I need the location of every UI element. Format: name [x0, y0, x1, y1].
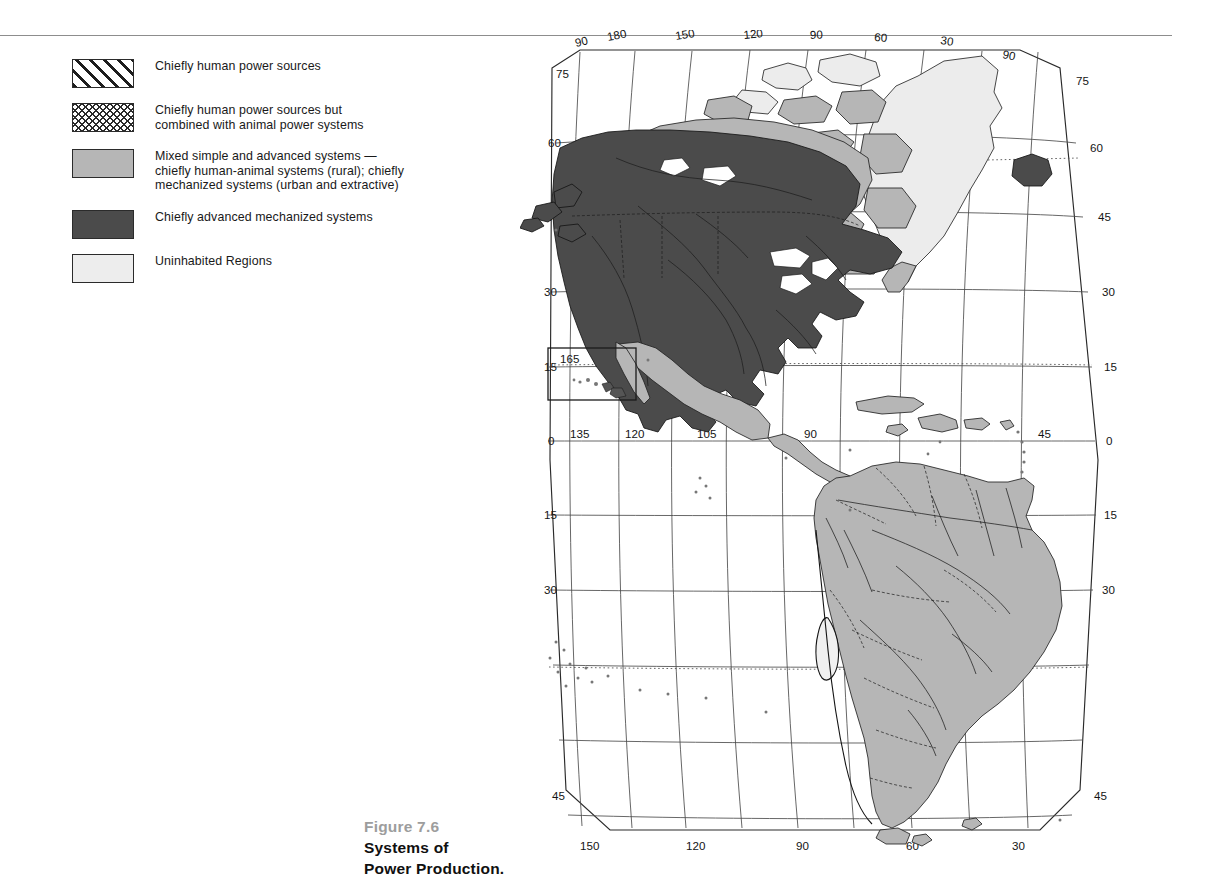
- lat-label-left: 45: [552, 789, 565, 802]
- legend-item-uninhabited: Uninhabited Regions: [72, 253, 492, 283]
- legend-item-advanced-mechanized: Chiefly advanced mechanized systems: [72, 209, 492, 239]
- lon-label-top: 60: [874, 30, 888, 44]
- lat-label-right: 30: [1102, 583, 1115, 596]
- legend-swatch-advanced-mechanized: [72, 210, 134, 239]
- legend-swatch-mixed-systems: [72, 149, 134, 178]
- legend-swatch-uninhabited: [72, 254, 134, 283]
- lat-label-left: 15: [544, 360, 557, 373]
- graticule-labels-top: 90 180 150 120 90 60 30 90: [574, 30, 1017, 62]
- lon-label-equator: 45: [1038, 427, 1051, 440]
- lon-label-equator: 90: [804, 427, 817, 440]
- figure-title-line-1: Systems of: [364, 837, 504, 858]
- lat-label-right: 0: [1106, 434, 1112, 447]
- region-south-america: [814, 462, 1062, 828]
- legend-item-mixed-systems: Mixed simple and advanced systems — chie…: [72, 148, 492, 193]
- lon-label-equator: 120: [625, 427, 644, 440]
- lat-label-left: 30: [544, 583, 557, 596]
- lat-label-right: 30: [1102, 285, 1115, 298]
- lat-label-left: 75: [556, 67, 569, 80]
- lat-label-right: 15: [1104, 360, 1117, 373]
- legend-text-line: Mixed simple and advanced systems —: [155, 149, 404, 164]
- legend-item-human-animal-power: Chiefly human power sources but combined…: [72, 102, 492, 132]
- graticule-labels-right: 75 60 45 30 15 0 15 30 45: [1076, 74, 1117, 802]
- lon-label-top: 90: [1002, 47, 1017, 62]
- legend-swatch-human-power: [72, 59, 134, 88]
- legend-label-human-animal-power: Chiefly human power sources but combined…: [155, 102, 364, 132]
- region-falkland-islands: [962, 818, 982, 830]
- lat-label-left: 30: [544, 285, 557, 298]
- lon-label-top: 180: [606, 30, 627, 43]
- figure-title-line-2: Power Production.: [364, 858, 504, 879]
- lat-label-right: 15: [1104, 508, 1117, 521]
- legend-text-line: Uninhabited Regions: [155, 254, 272, 269]
- lat-label-left: 0: [548, 434, 554, 447]
- lon-label-top: 90: [574, 33, 589, 49]
- lon-label-top: 30: [940, 33, 955, 48]
- lat-label-right: 75: [1076, 74, 1089, 87]
- region-caribbean-islands: [856, 396, 1014, 436]
- region-iceland: [1012, 154, 1052, 186]
- legend-label-uninhabited: Uninhabited Regions: [155, 253, 272, 269]
- legend-text-line: mechanized systems (urban and extractive…: [155, 178, 404, 193]
- legend-text-line: Chiefly human power sources but: [155, 103, 364, 118]
- lon-label-bottom: 120: [686, 839, 705, 852]
- lat-label-right: 45: [1094, 789, 1107, 802]
- legend-text-line: combined with animal power systems: [155, 118, 364, 133]
- lon-label-top: 150: [674, 30, 695, 42]
- legend-item-human-power: Chiefly human power sources: [72, 58, 492, 88]
- graticule-labels-bottom: 150 120 90 60 30: [580, 839, 1025, 852]
- lat-label-left: 15: [544, 508, 557, 521]
- figure-number: Figure 7.6: [364, 816, 504, 837]
- lat-label-left: 60: [548, 136, 561, 149]
- lon-label-bottom: 150: [580, 839, 599, 852]
- legend-text-line: chiefly human-animal systems (rural); ch…: [155, 164, 404, 179]
- hawaii-inset-label: 165: [560, 352, 579, 365]
- lon-label-equator: 135: [570, 427, 589, 440]
- lon-label-bottom: 90: [796, 839, 809, 852]
- lat-label-right: 60: [1090, 141, 1103, 154]
- lat-label-right: 45: [1098, 210, 1111, 223]
- americas-map: 90 180 150 120 90 60 30 90 75 60 45 30 1…: [520, 30, 1224, 895]
- legend-label-advanced-mechanized: Chiefly advanced mechanized systems: [155, 209, 373, 225]
- lon-label-bottom: 30: [1012, 839, 1025, 852]
- region-tierra-del-fuego: [876, 828, 932, 846]
- legend-label-human-power: Chiefly human power sources: [155, 58, 321, 74]
- lon-label-top: 120: [743, 30, 764, 41]
- map-legend: Chiefly human power sources Chiefly huma…: [72, 58, 492, 297]
- legend-label-mixed-systems: Mixed simple and advanced systems — chie…: [155, 148, 404, 193]
- map-figure: 90 180 150 120 90 60 30 90 75 60 45 30 1…: [520, 30, 1224, 895]
- lon-label-top: 90: [810, 30, 823, 41]
- legend-text-line: Chiefly human power sources: [155, 59, 321, 74]
- legend-swatch-human-animal-power: [72, 103, 134, 132]
- figure-caption: Figure 7.6 Systems of Power Production.: [364, 816, 504, 879]
- legend-text-line: Chiefly advanced mechanized systems: [155, 210, 373, 225]
